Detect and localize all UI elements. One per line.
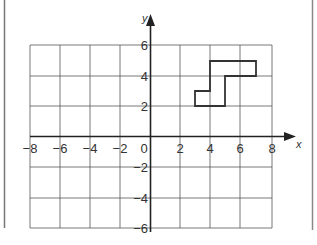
x-tick-label: −2	[113, 141, 128, 156]
x-axis	[30, 132, 296, 141]
x-tick-label: 6	[236, 141, 243, 156]
x-tick-label: 8	[268, 141, 275, 156]
x-axis-label: x	[295, 138, 302, 150]
x-tick-label: 2	[176, 141, 183, 156]
y-tick-label: 6	[141, 38, 148, 53]
x-tick-label: −6	[53, 141, 68, 156]
x-tick-label: −8	[23, 141, 38, 156]
y-tick-label: 2	[141, 99, 148, 114]
x-tick-label: 4	[206, 141, 213, 156]
x-axis-arrow-icon	[284, 132, 296, 141]
y-tick-label: −2	[133, 160, 148, 175]
y-tick-label: −6	[133, 221, 148, 236]
y-tick-label: −4	[133, 191, 148, 206]
coordinate-plane: −8 −6 −4 −2 0 2 4 6 8 6 4 2 −2 −4 −6 y x	[0, 0, 317, 245]
origin-label: 0	[140, 141, 147, 156]
x-tick-label: −4	[83, 141, 98, 156]
y-tick-label: 4	[141, 69, 148, 84]
polygon-shape	[195, 61, 256, 106]
